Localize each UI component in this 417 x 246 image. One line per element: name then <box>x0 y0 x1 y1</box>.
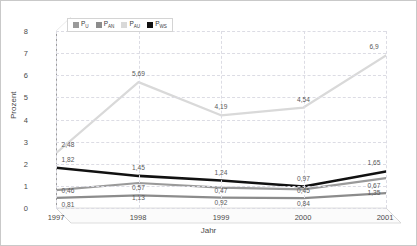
plot-area: 0,811,130,920,841,350,460,570,470,450,67… <box>56 31 386 208</box>
data-label-P_an-1999: 0,47 <box>215 186 228 193</box>
vgridline-1998 <box>139 31 140 208</box>
chart-frame: Prozent 8 7 6 5 4 3 2 1 0 1997 1998 1999… <box>0 0 417 246</box>
data-label-P_u-1999: 0,92 <box>215 198 228 205</box>
legend-swatch-3 <box>147 22 153 28</box>
y-tick-2: 2 <box>4 159 28 168</box>
y-tick-0: 0 <box>4 204 28 213</box>
data-label-P_u-1998: 1,13 <box>132 193 145 200</box>
data-label-P_an-2001: 0,67 <box>368 182 381 189</box>
data-label-P_au-2001: 6,9 <box>369 43 378 50</box>
x-tick-1998: 1998 <box>116 213 160 222</box>
data-label-P_au-1999: 4,19 <box>215 103 228 110</box>
legend-item-1[interactable]: PAN <box>96 20 115 29</box>
data-label-P_au-1997: 2,48 <box>62 141 75 148</box>
y-tick-6: 6 <box>4 71 28 80</box>
data-label-P_au-1998: 5,69 <box>132 70 145 77</box>
y-tick-8: 8 <box>4 27 28 36</box>
data-label-P_u-2001: 1,35 <box>368 189 381 196</box>
data-label-P_ws-1998: 1,45 <box>132 163 145 170</box>
gridline-0 <box>56 208 386 209</box>
legend-item-3[interactable]: PWS <box>147 20 167 29</box>
legend-label-3: PWS <box>155 20 167 29</box>
chart-legend: PU PAN PAU PWS <box>67 18 173 32</box>
data-label-P_au-2000: 4,54 <box>297 95 310 102</box>
y-tick-5: 5 <box>4 93 28 102</box>
data-label-P_an-1997: 0,46 <box>62 186 75 193</box>
x-axis-title: Jahr <box>1 226 416 235</box>
data-label-P_u-2000: 0,84 <box>297 200 310 207</box>
legend-swatch-0 <box>73 22 79 28</box>
legend-item-0[interactable]: PU <box>73 20 89 29</box>
legend-swatch-2 <box>121 22 127 28</box>
vgridline-2000 <box>304 31 305 208</box>
data-label-P_ws-2001: 1,65 <box>368 159 381 166</box>
legend-item-2[interactable]: PAU <box>121 20 140 29</box>
y-tick-3: 3 <box>4 137 28 146</box>
legend-swatch-1 <box>96 22 102 28</box>
data-label-P_an-1998: 0,57 <box>132 184 145 191</box>
legend-label-1: PAN <box>104 20 115 29</box>
x-tick-1997: 1997 <box>34 213 78 222</box>
vgridline-2001 <box>386 31 387 208</box>
y-tick-4: 4 <box>4 115 28 124</box>
vgridline-1997 <box>56 31 57 208</box>
vgridline-1999 <box>221 31 222 208</box>
data-label-P_ws-2000: 0,97 <box>297 174 310 181</box>
x-tick-1999: 1999 <box>199 213 243 222</box>
data-label-P_u-1997: 0,81 <box>62 201 75 208</box>
legend-label-2: PAU <box>129 20 140 29</box>
data-label-P_an-2000: 0,45 <box>297 187 310 194</box>
x-tick-2001: 2001 <box>363 213 407 222</box>
y-tick-7: 7 <box>4 49 28 58</box>
y-tick-1: 1 <box>4 181 28 190</box>
data-label-P_ws-1997: 1,82 <box>62 155 75 162</box>
legend-label-0: PU <box>81 20 89 29</box>
x-tick-2000: 2000 <box>281 213 325 222</box>
data-label-P_ws-1999: 1,24 <box>215 168 228 175</box>
